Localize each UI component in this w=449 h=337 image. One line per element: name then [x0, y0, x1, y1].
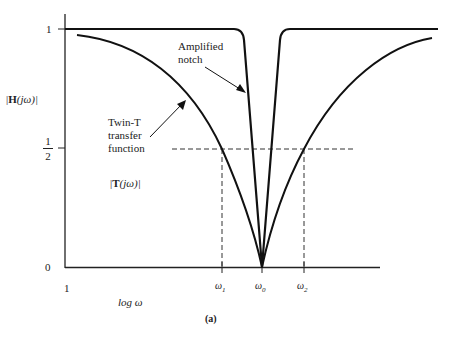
x-origin-label: 1	[64, 282, 70, 294]
frac-numerator: 1	[43, 135, 53, 147]
amplified-notch-arrow	[205, 67, 243, 91]
y-axis-label: |H(jω)|	[6, 93, 38, 105]
x-axis-label: log ω	[118, 296, 143, 308]
amplified-notch-label: Amplified notch	[178, 40, 223, 66]
frac-bar	[43, 148, 53, 149]
frac-denominator: 2	[43, 150, 53, 162]
x-tick-label-w0: ω0	[255, 280, 266, 296]
x-tick-label-w1: ω1	[215, 280, 226, 296]
y-tick-label-0: 0	[45, 261, 51, 273]
twin-t-arrow	[150, 103, 183, 137]
y-label-bold: H	[8, 93, 17, 105]
arrowhead-icon	[236, 84, 246, 93]
t-function-label: |T(jω)|	[110, 177, 141, 189]
x-tick-label-w2: ω2	[297, 280, 308, 296]
y-tick-label-half: 1 2	[43, 135, 53, 162]
twin-t-notch-figure: |H(jω)| 1 1 2 0 1 log ω ω1 ω0 ω2 (a) Amp…	[0, 0, 449, 337]
figure-caption: (a)	[205, 313, 217, 325]
twin-t-label: Twin-T transfer function	[108, 116, 145, 155]
y-tick-label-1: 1	[46, 23, 52, 35]
y-label-rest: (jω)|	[17, 93, 38, 105]
